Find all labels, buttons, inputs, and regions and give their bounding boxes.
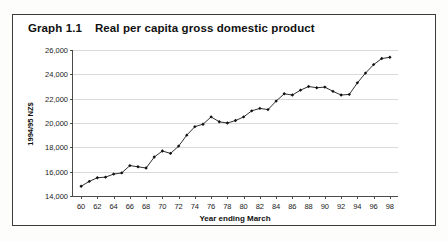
data-point: [258, 107, 261, 110]
x-tick-mark: [162, 196, 163, 199]
x-tick-label: 70: [158, 202, 166, 211]
x-tick-mark: [227, 196, 228, 199]
x-tick-mark: [146, 196, 147, 199]
x-tick-label: 74: [191, 202, 199, 211]
x-tick-label: 60: [77, 202, 85, 211]
data-point: [331, 90, 334, 93]
x-tick-mark: [292, 196, 293, 199]
x-tick-label: 72: [174, 202, 182, 211]
y-tick-label: 26,000: [45, 46, 68, 55]
y-tick-label: 14,000: [45, 192, 68, 201]
graph-title-text: Real per capita gross domestic product: [95, 22, 315, 34]
x-tick-label: 76: [207, 202, 215, 211]
data-point: [388, 56, 391, 59]
x-tick-label: 80: [239, 202, 247, 211]
x-tick-mark: [276, 196, 277, 199]
x-tick-mark: [309, 196, 310, 199]
x-tick-mark: [374, 196, 375, 199]
x-tick-mark: [195, 196, 196, 199]
x-tick-mark: [130, 196, 131, 199]
data-point: [104, 175, 107, 178]
x-tick-label: 90: [321, 202, 329, 211]
data-point: [234, 119, 237, 122]
x-tick-mark: [179, 196, 180, 199]
x-tick-label: 96: [369, 202, 377, 211]
data-point: [136, 165, 139, 168]
x-tick-mark: [211, 196, 212, 199]
plot-area: 14,00016,00018,00020,00022,00024,00026,0…: [72, 50, 398, 197]
x-tick-label: 94: [353, 202, 361, 211]
data-point: [307, 85, 310, 88]
y-tick-label: 18,000: [45, 143, 68, 152]
x-tick-label: 82: [256, 202, 264, 211]
graph-figure: Graph 1.1Real per capita gross domestic …: [0, 0, 448, 242]
x-tick-label: 78: [223, 202, 231, 211]
x-tick-label: 92: [337, 202, 345, 211]
x-tick-label: 68: [142, 202, 150, 211]
x-axis-label: Year ending March: [199, 214, 270, 223]
x-tick-mark: [341, 196, 342, 199]
data-point: [323, 85, 326, 88]
y-tick-label: 16,000: [45, 167, 68, 176]
y-tick-label: 22,000: [45, 94, 68, 103]
x-tick-label: 66: [126, 202, 134, 211]
x-tick-label: 86: [288, 202, 296, 211]
data-point: [315, 86, 318, 89]
graph-number: Graph 1.1: [28, 22, 82, 34]
x-tick-mark: [81, 196, 82, 199]
x-tick-mark: [325, 196, 326, 199]
x-tick-label: 62: [93, 202, 101, 211]
data-point: [96, 176, 99, 179]
y-tick-label: 20,000: [45, 119, 68, 128]
data-point: [112, 172, 115, 175]
gdp-series: [73, 50, 398, 196]
y-tick-mark: [70, 196, 73, 197]
y-tick-label: 24,000: [45, 70, 68, 79]
data-point: [226, 121, 229, 124]
y-axis-label: 1994/95 NZ$: [26, 102, 35, 145]
x-tick-label: 64: [109, 202, 117, 211]
x-tick-mark: [357, 196, 358, 199]
series-markers: [79, 56, 391, 188]
x-tick-mark: [97, 196, 98, 199]
x-tick-mark: [114, 196, 115, 199]
x-tick-mark: [244, 196, 245, 199]
x-tick-label: 84: [272, 202, 280, 211]
x-tick-mark: [390, 196, 391, 199]
page-title: Graph 1.1Real per capita gross domestic …: [28, 22, 315, 34]
x-tick-label: 88: [304, 202, 312, 211]
x-tick-label: 98: [386, 202, 394, 211]
data-point: [339, 93, 342, 96]
x-tick-mark: [260, 196, 261, 199]
